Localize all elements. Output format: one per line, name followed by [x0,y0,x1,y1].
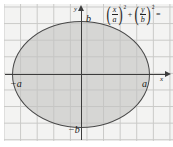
y-axis-label: y [74,6,77,13]
y-axis [81,9,82,140]
fraction-numerator: y [140,6,146,14]
y-axis-arrow-icon [78,5,84,11]
label-negative-b: −b [68,125,80,135]
ellipse-figure: x y a −a b −b ( x a ) 2 + ( y b ) 2 = [0,0,173,147]
x-axis-label: x [160,76,163,83]
fraction-numerator: x [112,6,118,14]
x-axis [5,74,168,75]
label-positive-b: b [86,14,91,24]
ellipse-equation: ( x a ) 2 + ( y b ) 2 = [105,6,161,24]
close-paren-1: ) [118,6,122,23]
label-positive-a: a [142,79,147,89]
x-axis-arrow-icon [165,71,171,77]
open-paren-2: ( [135,6,139,23]
fraction-denominator: b [140,15,146,23]
exponent-1: 2 [124,5,127,11]
open-paren-1: ( [106,6,110,23]
fraction-denominator: a [112,15,118,23]
fraction-x-over-a: x a [112,6,118,24]
exponent-2: 2 [152,5,155,11]
fraction-y-over-b: y b [140,6,146,24]
close-paren-2: ) [147,6,151,23]
plus-operator: + [127,11,134,19]
equals-sign: = [155,11,161,19]
label-negative-a: −a [10,79,22,89]
